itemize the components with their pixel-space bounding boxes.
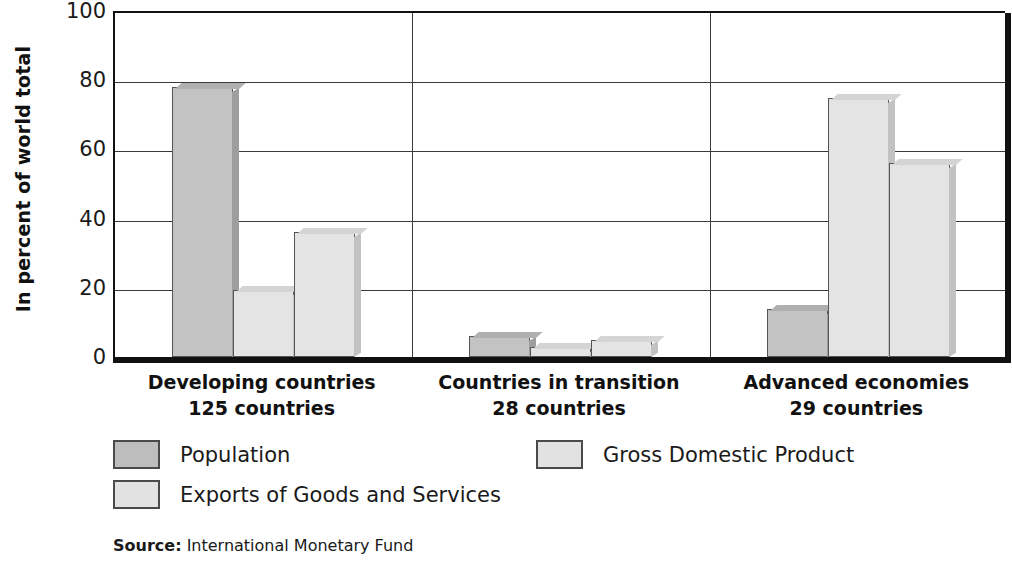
bar-population (469, 336, 530, 357)
category-name: Developing countries (113, 369, 410, 395)
bar-population (767, 309, 828, 357)
bar-top-shade (297, 228, 368, 234)
bar-exports-of-goods-and-services (294, 232, 355, 357)
bar-population (172, 87, 233, 357)
y-tick-0: 0 (32, 347, 106, 368)
bar-group (412, 13, 709, 357)
bar-group (710, 13, 1007, 357)
bar-face (295, 233, 354, 356)
legend-swatch-icon (113, 480, 160, 509)
legend-label: Exports of Goods and Services (180, 483, 501, 507)
category-count: 125 countries (113, 395, 410, 421)
category-count: 28 countries (410, 395, 707, 421)
bar-face (592, 341, 651, 356)
bar-side-shade (651, 340, 658, 357)
source-value: International Monetary Fund (187, 536, 414, 555)
bar-face (470, 337, 529, 356)
bar-top-shade (175, 83, 246, 89)
legend-swatch-icon (536, 440, 583, 469)
y-axis-tick-labels: 020406080100 (32, 0, 106, 368)
y-tick-20: 20 (32, 277, 106, 298)
bar-face (829, 99, 888, 357)
bar-group (115, 13, 412, 357)
y-tick-60: 60 (32, 139, 106, 160)
plot-area (113, 11, 1005, 357)
bar-side-shade (354, 233, 361, 357)
bar-gross-domestic-product (233, 290, 294, 357)
bar-gross-domestic-product (530, 347, 591, 357)
y-tick-100: 100 (32, 1, 106, 22)
category-name: Countries in transition (410, 369, 707, 395)
bar-gross-domestic-product (828, 98, 889, 358)
x-axis-category-labels: Developing countries125 countriesCountri… (113, 369, 1005, 427)
legend-swatch-icon (113, 440, 160, 469)
bar-face (234, 291, 293, 356)
bar-exports-of-goods-and-services (889, 163, 950, 357)
source-note: Source: International Monetary Fund (113, 536, 413, 555)
legend-item-population: Population (113, 440, 290, 469)
category-label-3: Advanced economies29 countries (708, 369, 1005, 421)
bar-side-shade (949, 164, 956, 357)
legend-item-gross-domestic-product: Gross Domestic Product (536, 440, 854, 469)
chart-legend: PopulationGross Domestic ProductExports … (113, 440, 993, 510)
source-label: Source: (113, 536, 182, 555)
y-tick-80: 80 (32, 70, 106, 91)
bar-top-shade (472, 332, 543, 338)
y-tick-40: 40 (32, 208, 106, 229)
bar-face (768, 310, 827, 356)
category-count: 29 countries (708, 395, 1005, 421)
category-label-2: Countries in transition28 countries (410, 369, 707, 421)
legend-label: Population (180, 443, 290, 467)
bar-exports-of-goods-and-services (591, 340, 652, 357)
bar-top-shade (892, 159, 963, 165)
category-name: Advanced economies (708, 369, 1005, 395)
bar-face (890, 164, 949, 356)
category-label-1: Developing countries125 countries (113, 369, 410, 421)
legend-item-exports-of-goods-and-services: Exports of Goods and Services (113, 480, 501, 509)
bar-face (173, 88, 232, 356)
bar-top-shade (831, 94, 902, 100)
y-axis-title: In percent of world total (12, 14, 34, 344)
legend-label: Gross Domestic Product (603, 443, 854, 467)
bar-top-shade (594, 336, 665, 342)
